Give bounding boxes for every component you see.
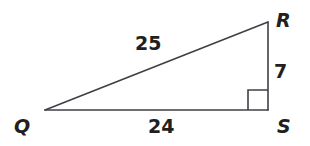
vertex-label-q: Q <box>14 117 30 136</box>
side-length-base-leg: 24 <box>148 117 174 136</box>
side-length-vertical-leg: 7 <box>274 62 287 81</box>
triangle-figure: Q R S 25 7 24 <box>0 0 310 146</box>
right-angle-marker-icon <box>248 90 268 110</box>
vertex-label-r: R <box>276 11 291 30</box>
side-length-hypotenuse: 25 <box>135 34 161 53</box>
vertex-label-s: S <box>277 117 291 136</box>
